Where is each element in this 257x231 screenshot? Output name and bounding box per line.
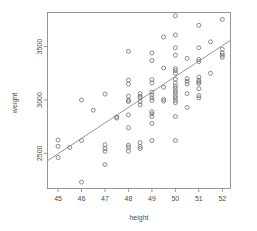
y-tick-label: 2500 (36, 145, 43, 161)
x-tick-label: 52 (218, 195, 226, 202)
x-tick-label: 46 (78, 195, 86, 202)
plot-canvas: 4546474849505152 250030003500 height wei… (0, 0, 257, 231)
x-tick-label: 45 (54, 195, 62, 202)
x-tick-label: 48 (125, 195, 133, 202)
y-tick-label: 3500 (36, 39, 43, 55)
x-tick-label: 49 (148, 195, 156, 202)
x-tick-label: 51 (195, 195, 203, 202)
y-axis-title: weight (11, 93, 19, 114)
x-tick-label: 47 (101, 195, 109, 202)
x-axis-title: height (129, 214, 148, 222)
scatter-plot-figure: 4546474849505152 250030003500 height wei… (0, 0, 257, 231)
y-tick-label: 3000 (36, 92, 43, 108)
x-tick-label: 50 (171, 195, 179, 202)
